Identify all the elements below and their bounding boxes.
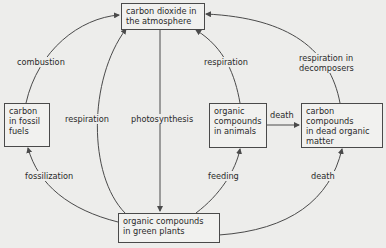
- label-combustion: combustion: [16, 57, 66, 67]
- node-fossil-fuels: carbon in fossil fuels: [4, 103, 50, 147]
- label-fossilization: fossilization: [24, 171, 74, 181]
- label-respiration-decomposers: respiration in decomposers: [298, 53, 355, 73]
- label-respiration-plants: respiration: [64, 114, 110, 124]
- label-respiration-animals: respiration: [203, 57, 249, 67]
- feeding-arrow: [196, 149, 240, 213]
- death-plants-arrow: [219, 149, 342, 235]
- node-atmosphere: carbon dioxide in the atmosphere: [121, 3, 205, 30]
- label-death-animals: death: [269, 110, 295, 120]
- carbon-cycle-diagram: carbon dioxide in the atmosphere carbon …: [0, 0, 386, 248]
- fossilization-arrow: [28, 148, 118, 222]
- node-green-plants: organic compounds in green plants: [118, 213, 220, 243]
- label-death-plants: death: [310, 171, 336, 181]
- node-animals: organic compounds in animals: [209, 103, 267, 148]
- node-dead-organic-matter: carbon compounds in dead organic matter: [301, 103, 383, 148]
- label-feeding: feeding: [207, 171, 240, 181]
- label-photosynthesis: photosynthesis: [130, 114, 194, 124]
